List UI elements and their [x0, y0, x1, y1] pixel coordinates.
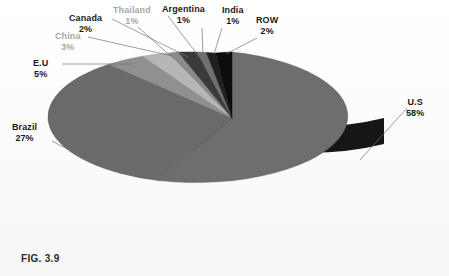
label-brazil: Brazil 27% — [12, 122, 37, 143]
leader-india — [214, 28, 222, 54]
label-us: U.S 58% — [406, 97, 424, 118]
label-canada-name: Canada — [69, 13, 102, 23]
label-us-name: U.S — [408, 97, 423, 107]
label-us-percent: 58% — [406, 108, 424, 119]
label-argentina: Argentina 1% — [162, 4, 205, 25]
leader-argentina-stem — [202, 28, 203, 55]
label-argentina-name: Argentina — [162, 4, 205, 14]
label-row: ROW 2% — [256, 15, 278, 36]
pie-chart: Canada 2% China 3% Thailand 1% Argentina… — [0, 0, 449, 276]
label-china: China 3% — [55, 31, 81, 52]
label-india: India 1% — [222, 5, 244, 26]
pie-top-face — [48, 52, 348, 183]
label-china-name: China — [55, 31, 81, 41]
label-eu: E.U 5% — [33, 58, 48, 79]
label-thailand-name: Thailand — [113, 5, 151, 15]
label-india-percent: 1% — [222, 16, 244, 27]
leader-china — [88, 37, 172, 56]
label-thailand: Thailand 1% — [113, 5, 151, 26]
figure-caption: FIG. 3.9 — [21, 253, 60, 264]
leader-row — [226, 38, 257, 54]
label-row-percent: 2% — [256, 26, 278, 37]
label-brazil-percent: 27% — [12, 133, 37, 144]
label-thailand-percent: 1% — [113, 16, 151, 27]
label-argentina-percent: 1% — [162, 15, 205, 26]
label-brazil-name: Brazil — [12, 122, 37, 132]
label-eu-percent: 5% — [33, 69, 48, 80]
label-china-percent: 3% — [55, 42, 81, 53]
figure-page: Canada 2% China 3% Thailand 1% Argentina… — [0, 0, 449, 276]
label-eu-name: E.U — [33, 58, 48, 68]
label-india-name: India — [222, 5, 244, 15]
label-row-name: ROW — [256, 15, 278, 25]
